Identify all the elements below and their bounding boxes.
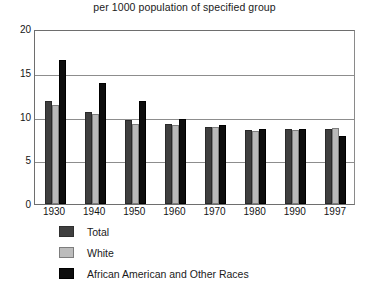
- chart-title: per 1000 population of specified group: [0, 1, 369, 13]
- legend-swatch-icon: [59, 247, 74, 258]
- legend-item: White: [59, 242, 349, 263]
- bar: [165, 124, 172, 205]
- bar-group: [85, 31, 106, 204]
- legend-item-label: Total: [87, 226, 109, 238]
- bar: [205, 127, 212, 204]
- bar: [52, 105, 59, 204]
- bar: [285, 129, 292, 204]
- y-tick-label: 20: [3, 24, 31, 35]
- bar: [259, 129, 266, 204]
- x-tick-label: 1950: [112, 206, 156, 217]
- bar: [339, 136, 346, 204]
- x-tick-label: 1970: [193, 206, 237, 217]
- bar: [85, 112, 92, 204]
- x-tick-label: 1997: [313, 206, 357, 217]
- bar-chart-figure: per 1000 population of specified group 0…: [0, 0, 369, 306]
- chart-legend: TotalWhiteAfrican American and Other Rac…: [59, 221, 349, 284]
- bar: [92, 114, 99, 204]
- bar: [219, 125, 226, 204]
- legend-item: Total: [59, 221, 349, 242]
- bar: [125, 120, 132, 204]
- x-tick-label: 1960: [152, 206, 196, 217]
- bar: [299, 129, 306, 204]
- legend-swatch-icon: [59, 226, 74, 237]
- bar: [132, 124, 139, 205]
- bar: [45, 101, 52, 204]
- bar-group: [325, 31, 346, 204]
- bar: [252, 131, 259, 205]
- bar: [325, 129, 332, 204]
- bar: [292, 130, 299, 204]
- bar: [245, 130, 252, 204]
- y-tick-label: 0: [3, 199, 31, 210]
- bar: [59, 60, 66, 204]
- bar-group: [205, 31, 226, 204]
- x-tick-label: 1990: [273, 206, 317, 217]
- bar-group: [125, 31, 146, 204]
- x-axis: 19301940195019601970198019901997: [34, 206, 355, 222]
- y-axis: 05101520: [0, 30, 31, 205]
- bar: [212, 127, 219, 204]
- bars-layer: [35, 31, 354, 204]
- bar: [179, 119, 186, 204]
- bar: [172, 125, 179, 204]
- x-tick-label: 1940: [72, 206, 116, 217]
- legend-item-label: White: [87, 247, 114, 259]
- legend-item: African American and Other Races: [59, 263, 349, 284]
- y-tick-label: 15: [3, 68, 31, 79]
- x-tick-label: 1980: [233, 206, 277, 217]
- bar-group: [285, 31, 306, 204]
- y-tick-label: 10: [3, 112, 31, 123]
- bar-group: [165, 31, 186, 204]
- bar: [139, 101, 146, 204]
- y-tick-label: 5: [3, 155, 31, 166]
- bar-group: [45, 31, 66, 204]
- bar: [99, 83, 106, 204]
- bar-group: [245, 31, 266, 204]
- legend-swatch-icon: [59, 268, 74, 279]
- x-tick-label: 1930: [32, 206, 76, 217]
- bar: [332, 128, 339, 204]
- plot-area: [34, 30, 355, 205]
- legend-item-label: African American and Other Races: [87, 268, 249, 280]
